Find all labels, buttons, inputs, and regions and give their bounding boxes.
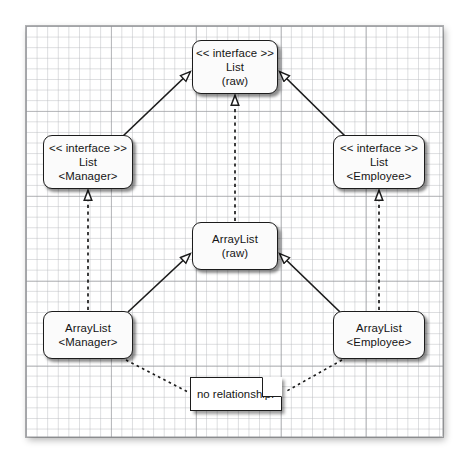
node-line-name: ArrayList [65, 321, 111, 335]
list-manager-interface-node[interactable]: << interface >> List <Manager> [43, 135, 133, 189]
diagram-stage: << interface >> List (raw) << interface … [0, 0, 462, 454]
arraylist-employee-class-node[interactable]: ArrayList <Employee> [333, 311, 425, 359]
dashed-link-arraylist-manager-to-note [126, 360, 188, 392]
node-line-type-param: <Employee> [347, 335, 412, 349]
node-line-name: ArrayList [212, 232, 258, 246]
generalization-arraylist-manager-to-arraylist-raw [128, 254, 190, 312]
node-line-stereotype: << interface >> [340, 141, 418, 155]
node-line-stereotype: << interface >> [196, 46, 274, 60]
arraylist-manager-class-node[interactable]: ArrayList <Manager> [43, 311, 133, 359]
node-line-name: List [79, 155, 97, 169]
list-employee-interface-node[interactable]: << interface >> List <Employee> [333, 135, 425, 189]
generalization-list-employee-to-list-raw [280, 72, 346, 137]
node-line-type-param: <Manager> [58, 169, 117, 183]
node-line-name: ArrayList [356, 321, 402, 335]
generalization-list-manager-to-list-raw [122, 72, 190, 137]
arraylist-raw-class-node[interactable]: ArrayList (raw) [192, 222, 278, 270]
node-line-type-param: (raw) [222, 246, 248, 260]
dashed-link-arraylist-employee-to-note [285, 360, 342, 392]
node-line-name: List [370, 155, 388, 169]
generalization-arraylist-employee-to-arraylist-raw [280, 254, 340, 312]
node-line-name: List [226, 60, 244, 74]
list-raw-interface-node[interactable]: << interface >> List (raw) [192, 40, 278, 94]
node-line-type-param: <Employee> [347, 169, 412, 183]
no-relationship-note[interactable]: no relationship! [190, 377, 282, 411]
node-line-type-param: <Manager> [58, 335, 117, 349]
node-line-type-param: (raw) [222, 74, 248, 88]
node-line-stereotype: << interface >> [49, 141, 127, 155]
